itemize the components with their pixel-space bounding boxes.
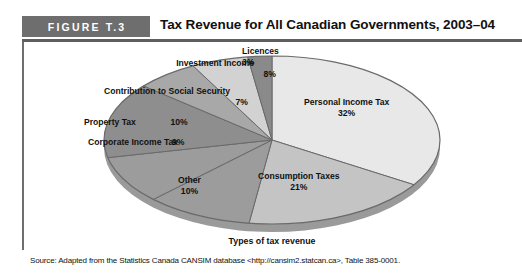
label-corporate-income-tax-pct: 9% [172,137,184,148]
label-other: Other 10% [178,175,201,196]
label-property-tax-name: Property Tax [84,117,168,128]
label-personal-income-tax: Personal Income Tax 32% [304,97,389,118]
label-consumption-taxes: Consumption Taxes 21% [258,171,340,192]
axis-caption: Types of tax revenue [26,236,518,246]
label-property-tax: Property Tax 10% [84,117,188,128]
figure-panel: FIGURE T.3 Tax Revenue for All Canadian … [0,0,522,273]
figure-header: FIGURE T.3 Tax Revenue for All Canadian … [0,16,522,37]
label-personal-income-tax-name: Personal Income Tax [304,97,389,107]
label-licences-name: Licences [242,46,279,56]
label-other-name: Other [178,175,201,185]
label-investment-income: Investment Income 8% [166,58,254,69]
label-contribution-social-security-pct: 7% [236,97,248,108]
figure-title: Tax Revenue for All Canadian Governments… [160,17,495,32]
label-corporate-income-tax-name: Corporate Income Tax [88,137,178,147]
label-consumption-taxes-pct: 21% [258,182,340,193]
label-personal-income-tax-pct: 32% [304,108,389,119]
label-other-pct: 10% [178,186,201,197]
label-corporate-income-tax: Corporate Income Tax 9% [88,137,178,148]
header-divider [22,39,522,42]
label-investment-income-name: Investment Income [176,58,254,68]
label-contribution-social-security-name: Contribution to Social Security [104,86,230,96]
figure-number-badge: FIGURE T.3 [22,16,150,37]
source-note: Source: Adapted from the Statistics Cana… [30,256,400,265]
label-consumption-taxes-name: Consumption Taxes [258,171,340,181]
label-contribution-social-security: Contribution to Social Security 7% [104,86,224,97]
label-investment-income-pct: 8% [264,69,276,80]
chart-plot-area: Licences 3% Investment Income 8% Contrib… [26,44,518,246]
label-property-tax-pct: 10% [170,117,187,128]
panel-left-border [22,42,24,250]
